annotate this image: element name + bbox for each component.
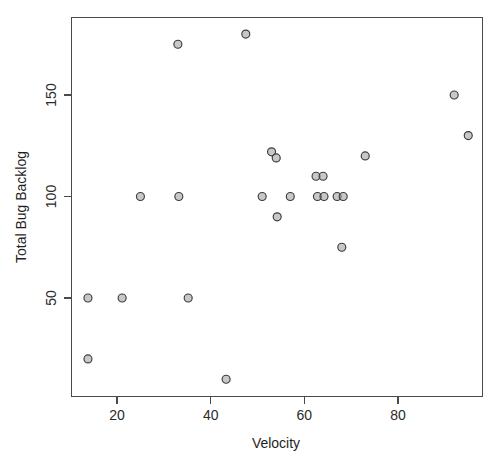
x-tick-label: 40 [203,407,219,423]
data-point [338,243,346,251]
scatter-plot-figure: 50100150 20406080 Velocity Total Bug Bac… [0,0,497,470]
plot-canvas: 50100150 20406080 Velocity Total Bug Bac… [0,0,497,470]
x-tick-label: 80 [390,407,406,423]
x-axis-title: Velocity [252,435,300,451]
data-point [118,294,126,302]
data-point [339,193,347,201]
data-point [242,30,250,38]
data-point [136,193,144,201]
y-tick-label: 150 [43,83,59,107]
y-tick-label: 100 [43,185,59,209]
data-point [222,375,230,383]
data-point [450,91,458,99]
data-point [272,154,280,162]
x-tick-label: 60 [297,407,313,423]
y-axis-title: Total Bug Backlog [13,151,29,263]
data-point [319,172,327,180]
y-tick-label: 50 [43,290,59,306]
data-point [320,193,328,201]
plot-background [0,0,497,470]
x-tick-label: 20 [109,407,125,423]
data-point [464,132,472,140]
data-point [258,193,266,201]
data-point [84,294,92,302]
data-point [174,40,182,48]
data-point [175,193,183,201]
data-point [273,213,281,221]
data-point [286,193,294,201]
data-point [84,355,92,363]
data-point [361,152,369,160]
data-point [184,294,192,302]
